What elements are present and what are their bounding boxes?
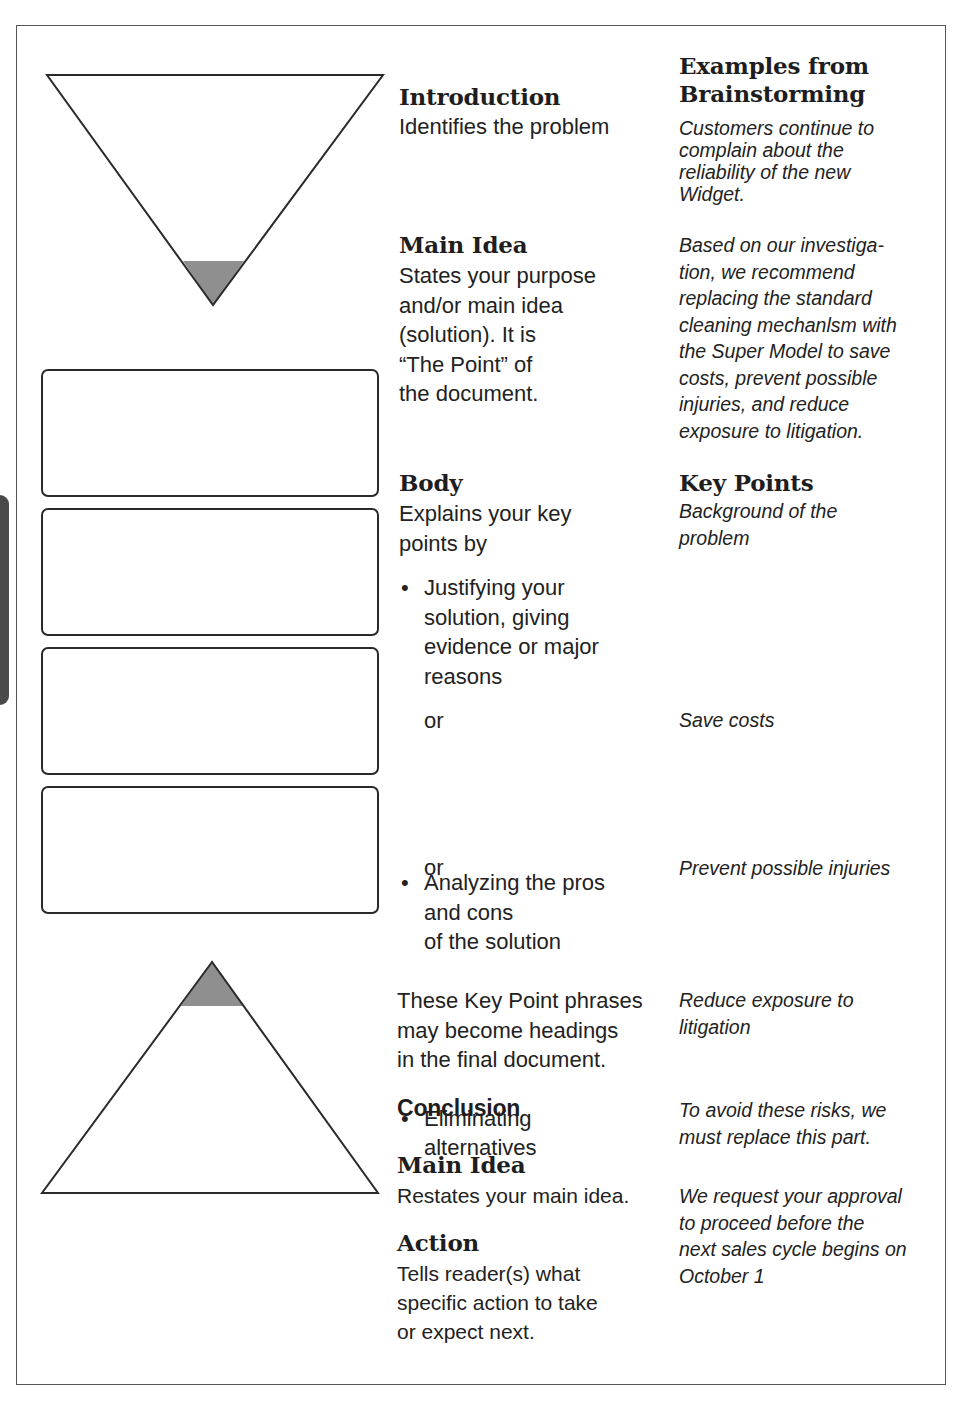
text-line: We request your approval	[679, 1183, 907, 1210]
introduction-text: Identifies the problem	[399, 112, 609, 142]
key-points-heading: Key Points	[679, 469, 814, 497]
clipped-caption	[16, 1395, 416, 1404]
text-line: problem	[679, 525, 837, 552]
text-line: must replace this part.	[679, 1124, 886, 1151]
body-heading: Body	[399, 469, 462, 497]
main-idea-example: Based on our investiga- tion, we recomme…	[679, 232, 897, 444]
text-line: of the solution	[424, 927, 960, 957]
action-text: Tells reader(s) what specific action to …	[397, 1259, 598, 1346]
text-line: Based on our investiga-	[679, 232, 897, 259]
text-line: States your purpose	[399, 261, 596, 291]
examples-heading: Examples from Brainstorming	[679, 52, 869, 108]
main-idea-heading: Main Idea	[399, 231, 527, 259]
key-point-note: These Key Point phrases may become headi…	[397, 986, 643, 1075]
text-line: These Key Point phrases	[397, 986, 643, 1016]
text-line: October 1	[679, 1263, 907, 1290]
inverted-triangle-icon	[47, 75, 383, 305]
conclusion-main-idea-text: Restates your main idea.	[397, 1181, 629, 1211]
conclusion-example: To avoid these risks, we must replace th…	[679, 1097, 886, 1150]
body-box-4	[41, 786, 379, 914]
text-line: Tells reader(s) what	[397, 1259, 598, 1288]
bullet-justifying: Justifying your solution, giving evidenc…	[399, 573, 960, 691]
text-line: solution, giving	[424, 603, 960, 633]
text-line: Save costs	[679, 707, 774, 734]
text-line: exposure to litigation.	[679, 418, 897, 445]
text-line: evidence or major	[424, 632, 960, 662]
upright-triangle-icon	[42, 962, 378, 1193]
body-box-2	[41, 508, 379, 636]
body-intro-text: Explains your key points by	[399, 499, 571, 558]
text-line: tion, we recommend	[679, 259, 897, 286]
conclusion-main-idea-heading: Main Idea	[397, 1151, 525, 1179]
body-box-1	[41, 369, 379, 497]
text-line: To avoid these risks, we	[679, 1097, 886, 1124]
text-line: Justifying your	[424, 573, 960, 603]
main-idea-text: States your purpose and/or main idea (so…	[399, 261, 596, 409]
text-line: injuries, and reduce	[679, 391, 897, 418]
text-line: next sales cycle begins on	[679, 1236, 907, 1263]
text-line: to proceed before the	[679, 1210, 907, 1237]
heading-line: Examples from	[679, 52, 869, 80]
introduction-heading: Introduction	[399, 83, 560, 111]
text-line: and cons	[424, 898, 960, 928]
text-line: in the final document.	[397, 1045, 643, 1075]
body-box-3	[41, 647, 379, 775]
key-point-save-costs: Save costs	[679, 707, 774, 734]
text-line: or expect next.	[397, 1317, 598, 1346]
key-point-reduce-exposure: Reduce exposure to litigation	[679, 987, 854, 1040]
text-line: “The Point” of	[399, 350, 596, 380]
text-line: the document.	[399, 379, 596, 409]
text-line: Explains your key	[399, 499, 571, 529]
text-line: costs, prevent possible	[679, 365, 897, 392]
text-line: reliability of the new	[679, 161, 874, 183]
text-line: Background of the	[679, 498, 837, 525]
text-line: points by	[399, 529, 571, 559]
conclusion-heading: Conclusion	[397, 1094, 520, 1122]
text-line: Reduce exposure to	[679, 987, 854, 1014]
or-separator-2: or	[399, 853, 444, 883]
text-line: replacing the standard	[679, 285, 897, 312]
text-line: may become headings	[397, 1016, 643, 1046]
heading-line: Brainstorming	[679, 80, 869, 108]
or-separator-1: or	[399, 706, 444, 736]
intro-example: Customers continue to complain about the…	[679, 117, 874, 205]
text-line: Customers continue to	[679, 117, 874, 139]
text-line: and/or main idea	[399, 291, 596, 321]
text-line: Prevent possible injuries	[679, 855, 890, 882]
key-point-background: Background of the problem	[679, 498, 837, 551]
text-line: reasons	[424, 662, 960, 692]
text-line: complain about the	[679, 139, 874, 161]
text-line: litigation	[679, 1014, 854, 1041]
text-line: specific action to take	[397, 1288, 598, 1317]
text-line: (solution). It is	[399, 320, 596, 350]
text-line: the Super Model to save	[679, 338, 897, 365]
key-point-prevent-injuries: Prevent possible injuries	[679, 855, 890, 882]
action-example: We request your approval to proceed befo…	[679, 1183, 907, 1289]
text-line: Widget.	[679, 183, 874, 205]
text-line: cleaning mechanlsm with	[679, 312, 897, 339]
action-heading: Action	[397, 1229, 479, 1257]
